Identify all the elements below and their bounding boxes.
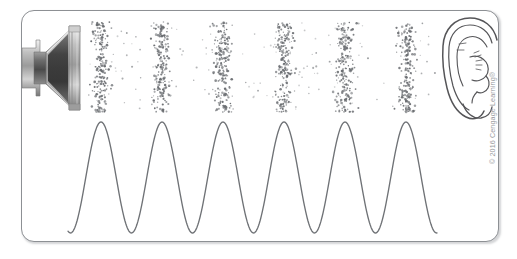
figure-root: © 2016 Cengage Learning® [0,0,517,259]
loudspeaker-icon [22,26,80,110]
diagram-canvas [0,0,517,259]
human-ear-icon [443,18,497,119]
pressure-waveform-chart [68,122,437,233]
air-particle-field [88,21,436,113]
waveform-line [68,122,437,233]
